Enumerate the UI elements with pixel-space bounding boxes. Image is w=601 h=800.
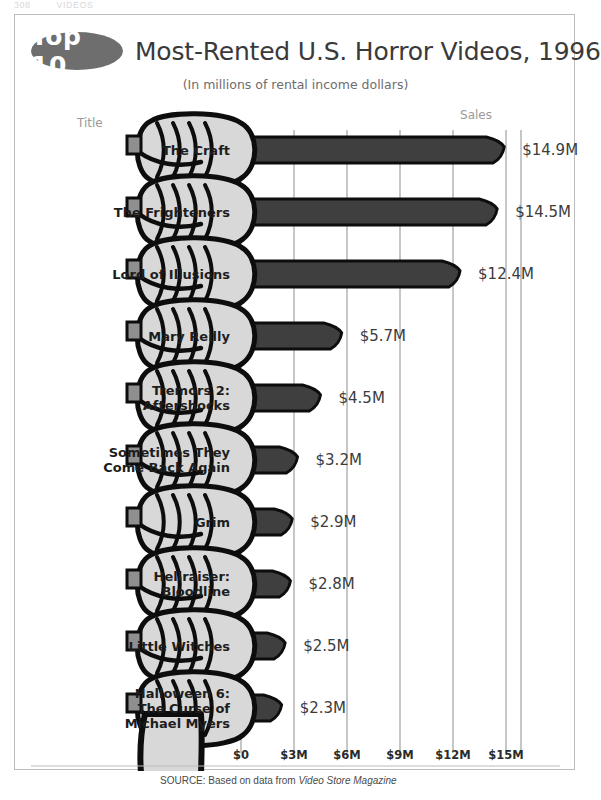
x-tick-label: $15M	[488, 748, 523, 762]
value-label: $2.9M	[310, 513, 356, 531]
value-label: $2.8M	[308, 575, 354, 593]
value-label: $14.5M	[515, 203, 571, 221]
value-label: $12.4M	[478, 265, 534, 283]
value-label: $2.5M	[303, 637, 349, 655]
x-tick-label: $3M	[280, 748, 307, 762]
x-tick-label: $0	[233, 748, 249, 762]
running-head: 308VIDEOS	[14, 0, 94, 10]
source-prefix: SOURCE: Based on data from	[160, 775, 298, 786]
value-label: $3.2M	[316, 451, 362, 469]
value-label: $5.7M	[360, 327, 406, 345]
value-label: $14.9M	[522, 141, 578, 159]
x-tick-label: $9M	[386, 748, 413, 762]
x-tick-label: $12M	[435, 748, 470, 762]
running-head-section: VIDEOS	[57, 0, 94, 10]
x-axis-tick-labels: $0$3M$6M$9M$12M$15M	[15, 748, 576, 766]
value-labels: $14.9M$14.5M$12.4M$5.7M$4.5M$3.2M$2.9M$2…	[15, 15, 576, 771]
running-head-page-number: 308	[14, 0, 31, 10]
source-publication: Video Store Magazine	[298, 775, 396, 786]
chart-frame: Top 10 Most-Rented U.S. Horror Videos, 1…	[14, 14, 575, 770]
x-tick-label: $6M	[333, 748, 360, 762]
value-label: $4.5M	[339, 389, 385, 407]
value-label: $2.3M	[300, 699, 346, 717]
source-note: SOURCE: Based on data from Video Store M…	[160, 775, 397, 786]
